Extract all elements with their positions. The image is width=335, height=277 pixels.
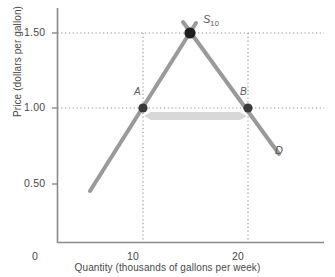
horizontal-gridlines (58, 33, 325, 108)
y-tick-label-150: 1.50 (24, 26, 45, 38)
demand-curve-label: D (275, 144, 283, 156)
y-axis-title: Price (dollars per gallon) (12, 0, 23, 127)
supply-demand-chart: Price (dollars per gallon) Quantity (tho… (0, 0, 335, 277)
y-tick-label-050: 0.50 (24, 177, 45, 189)
supply-curve-label: S10 (203, 13, 219, 28)
point-b-label: B (240, 86, 247, 97)
point-b-marker (243, 103, 252, 112)
x-axis-title: Quantity (thousands of gallons per week) (0, 262, 335, 273)
equilibrium-point (184, 27, 195, 38)
point-a-label: A (134, 86, 141, 97)
point-a-marker (138, 103, 147, 112)
y-axis-ticks (52, 33, 58, 184)
axis-lines (58, 8, 325, 243)
supply-curve-label-subscript: 10 (210, 19, 219, 28)
y-tick-label-100: 1.00 (24, 101, 45, 113)
vertical-gridlines (143, 33, 248, 242)
x-tick-label-0: 0 (32, 250, 38, 262)
demand-curve (183, 22, 279, 154)
x-tick-label-20: 20 (232, 250, 244, 262)
chart-canvas (0, 0, 335, 277)
x-tick-label-10: 10 (127, 250, 139, 262)
